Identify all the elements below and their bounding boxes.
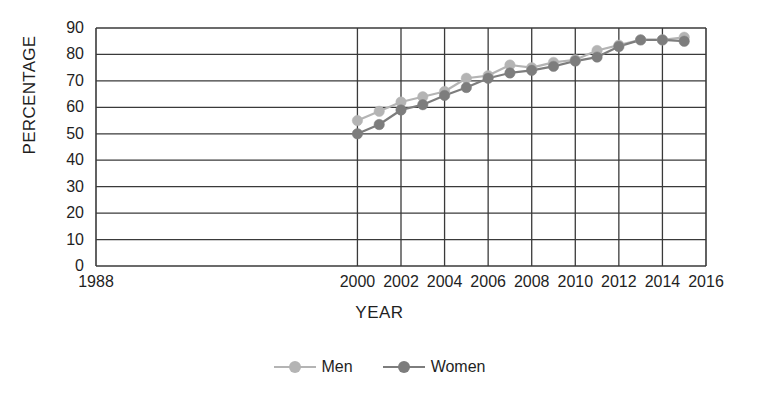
data-point-women xyxy=(635,35,645,45)
legend-item[interactable]: Men xyxy=(274,358,353,376)
data-point-men xyxy=(461,73,471,83)
line-chart: PERCENTAGE YEAR 0102030405060708090 1988… xyxy=(0,0,759,404)
legend-swatch-icon xyxy=(383,359,425,375)
data-point-women xyxy=(657,35,667,45)
data-point-women xyxy=(548,61,558,71)
data-point-women xyxy=(592,52,602,62)
data-point-women xyxy=(614,41,624,51)
legend-item[interactable]: Women xyxy=(383,358,486,376)
data-point-women xyxy=(461,82,471,92)
data-point-women xyxy=(418,99,428,109)
data-point-men xyxy=(352,115,362,125)
data-point-women xyxy=(439,90,449,100)
plot-area xyxy=(0,0,759,404)
legend-label: Women xyxy=(431,358,486,376)
data-point-women xyxy=(527,65,537,75)
data-point-women xyxy=(505,68,515,78)
data-point-women xyxy=(396,105,406,115)
data-point-women xyxy=(374,119,384,129)
legend-label: Men xyxy=(322,358,353,376)
data-point-women xyxy=(483,73,493,83)
chart-legend: MenWomen xyxy=(0,358,759,376)
data-point-women xyxy=(679,36,689,46)
data-point-women xyxy=(570,56,580,66)
data-point-women xyxy=(352,129,362,139)
data-point-men xyxy=(374,106,384,116)
legend-swatch-icon xyxy=(274,359,316,375)
